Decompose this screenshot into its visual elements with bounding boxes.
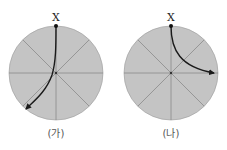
point-x-label: X (52, 11, 60, 24)
panel-na: X (나) (124, 11, 218, 139)
caption-ga: (가) (48, 128, 65, 139)
caption-na: (나) (163, 128, 180, 139)
center-dot (170, 72, 172, 74)
point-x-dot (169, 24, 173, 28)
point-x-label: X (167, 11, 175, 24)
center-dot (55, 72, 57, 74)
figure-canvas: X (가) X (나) (0, 0, 227, 150)
panel-ga: X (가) (9, 11, 103, 139)
point-x-dot (54, 24, 58, 28)
